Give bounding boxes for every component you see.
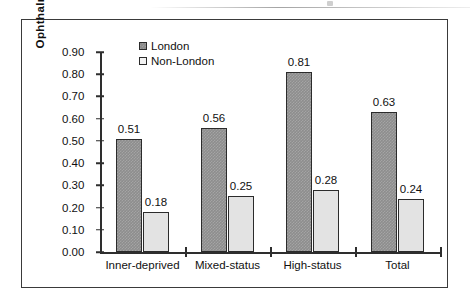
chart-legend: London Non-London bbox=[139, 40, 214, 67]
y-tick-label: 0.40 bbox=[62, 157, 84, 169]
y-tick-label: 0.50 bbox=[62, 135, 84, 147]
legend-item-non-london[interactable]: Non-London bbox=[139, 55, 214, 67]
y-tick-label: 0.80 bbox=[62, 68, 84, 80]
bar-value-label: 0.51 bbox=[118, 123, 140, 135]
bar-london bbox=[116, 139, 142, 252]
x-category-label: Inner-deprived bbox=[105, 259, 179, 271]
bar-london bbox=[371, 112, 397, 252]
bar-value-label: 0.25 bbox=[230, 180, 252, 192]
bar-value-label: 0.28 bbox=[315, 174, 337, 186]
y-tick-label: 0.90 bbox=[62, 46, 84, 58]
legend-label-london: London bbox=[151, 40, 189, 52]
legend-label-non-london: Non-London bbox=[151, 55, 214, 67]
x-category-label: Mixed-status bbox=[195, 259, 260, 271]
y-tick-label: 0.70 bbox=[62, 90, 84, 102]
y-tick-label: 0.20 bbox=[62, 202, 84, 214]
y-tick-label: 0.10 bbox=[62, 224, 84, 236]
bar-non-london bbox=[228, 196, 254, 252]
plot-area: 0.510.180.560.250.810.280.630.24 bbox=[100, 52, 440, 252]
y-tick-label: 0.60 bbox=[62, 113, 84, 125]
y-tick-label: 0.30 bbox=[62, 179, 84, 191]
bar-non-london bbox=[143, 212, 169, 252]
x-category-label: Total bbox=[385, 259, 409, 271]
bar-non-london bbox=[313, 190, 339, 252]
non-london-swatch-icon bbox=[139, 57, 147, 65]
london-swatch-icon bbox=[139, 42, 147, 50]
x-category-label: High-status bbox=[283, 259, 341, 271]
bar-value-label: 0.24 bbox=[400, 183, 422, 195]
bar-london bbox=[201, 128, 227, 252]
bar-value-label: 0.63 bbox=[373, 96, 395, 108]
x-tick-mark bbox=[440, 247, 442, 257]
chart-figure: Ophthalmic medical practitioners 0.900.8… bbox=[0, 0, 470, 305]
bar-value-label: 0.56 bbox=[203, 112, 225, 124]
scan-artifact-speck bbox=[327, 1, 333, 6]
y-tick-label: 0.00 bbox=[62, 246, 84, 258]
scan-artifact-line bbox=[150, 7, 470, 8]
y-axis-title: Ophthalmic medical practitioners bbox=[29, 0, 51, 58]
bar-non-london bbox=[398, 199, 424, 252]
bar-value-label: 0.18 bbox=[145, 196, 167, 208]
bar-value-label: 0.81 bbox=[288, 56, 310, 68]
bar-london bbox=[286, 72, 312, 252]
legend-item-london[interactable]: London bbox=[139, 40, 214, 52]
